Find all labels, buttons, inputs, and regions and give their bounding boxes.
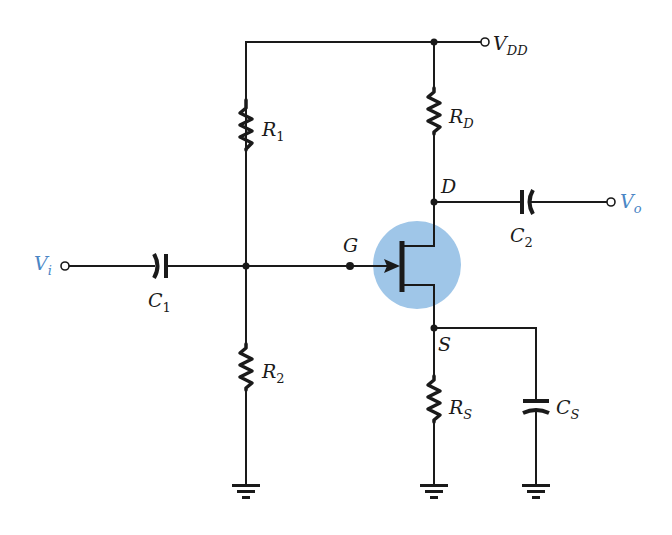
gate-label: G <box>343 234 358 256</box>
capacitor-cs: CS <box>523 396 580 484</box>
source-label: S <box>438 333 451 355</box>
capacitor-c2: C2 <box>510 190 607 250</box>
vdd-label: VDD <box>493 32 528 58</box>
capacitor-c1: C1 <box>148 254 350 315</box>
r2-label: R2 <box>261 360 285 386</box>
ground-icon <box>232 484 260 499</box>
vi-label: Vi <box>34 252 52 278</box>
rd-label: RD <box>448 105 474 131</box>
gate-node: G <box>343 234 358 270</box>
rs-label: RS <box>448 396 472 422</box>
source-node: S <box>431 325 537 402</box>
output-terminal: Vo <box>607 190 642 216</box>
vdd-terminal <box>481 38 489 46</box>
r1-label: R1 <box>261 118 285 144</box>
c1-label: C1 <box>148 289 171 315</box>
drain-label: D <box>440 175 456 197</box>
cs-label: CS <box>556 396 580 422</box>
ground-icon <box>420 484 448 499</box>
vo-label: Vo <box>620 190 642 216</box>
drain-node: D <box>431 175 521 206</box>
input-terminal: Vi <box>34 252 155 278</box>
circuit-diagram: VDD R1 RD D C2 Vo G <box>0 0 672 535</box>
ground-icon <box>522 484 550 499</box>
supply-rail: VDD <box>246 32 528 149</box>
resistor-r2: R2 <box>240 266 285 484</box>
c2-label: C2 <box>510 224 533 250</box>
